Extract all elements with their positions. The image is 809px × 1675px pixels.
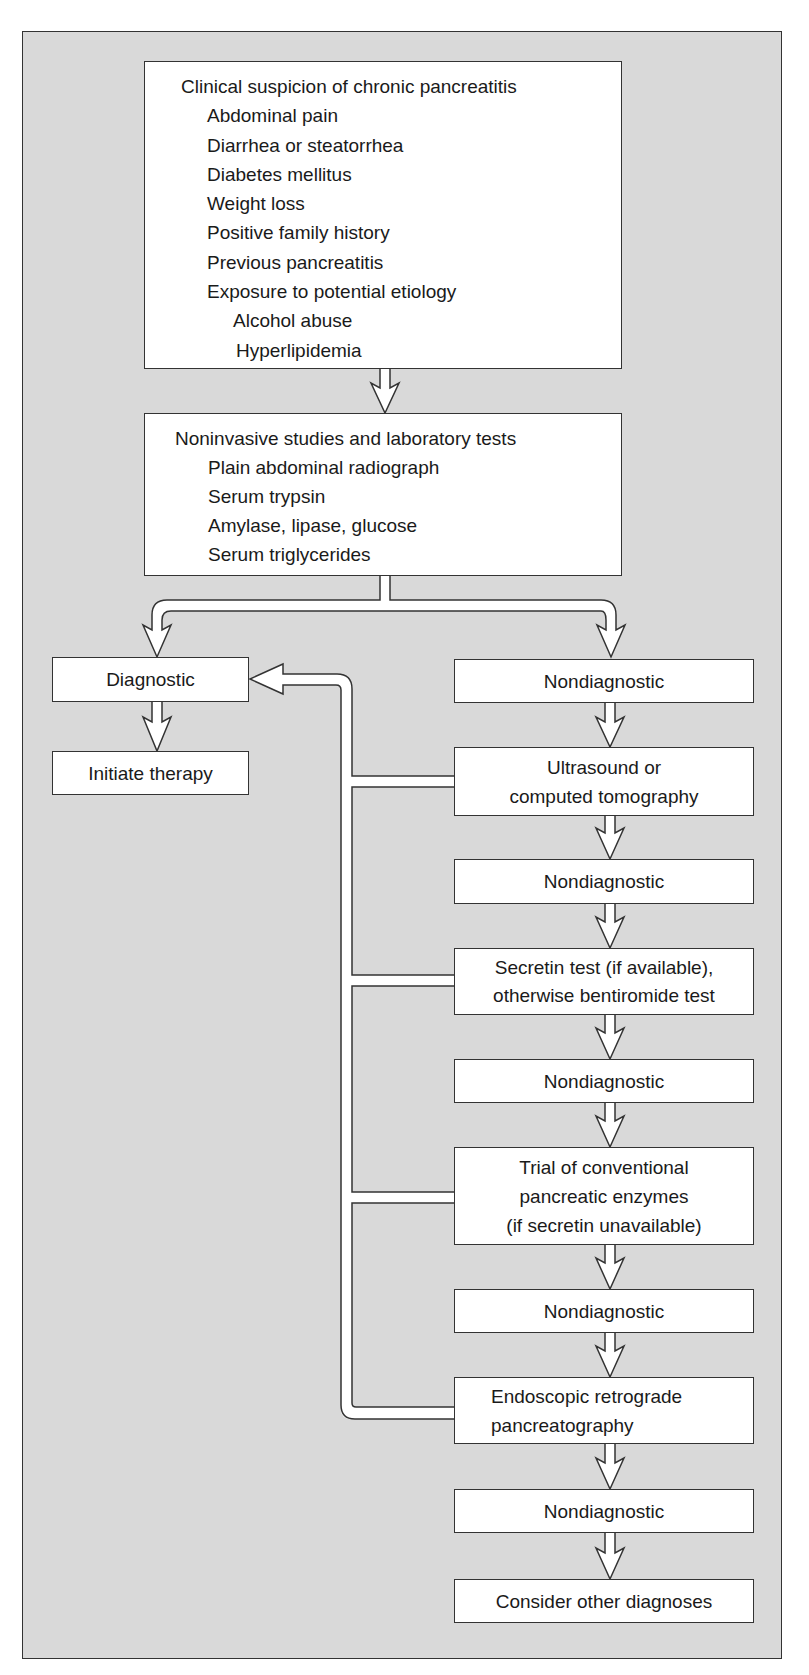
arrow-down-icon: [596, 816, 624, 859]
list-item: Amylase, lipase, glucose: [175, 511, 621, 540]
noninvasive-studies-box: Noninvasive studies and laboratory tests…: [144, 413, 622, 576]
arrow-down-icon: [596, 1015, 624, 1059]
node-label: Nondiagnostic: [544, 670, 664, 693]
ultrasound-ct-box: Ultrasound or computed tomography: [454, 747, 754, 816]
arrow-down-icon: [596, 1245, 624, 1289]
arrow-down-icon: [596, 1444, 624, 1489]
list-item: Abdominal pain: [181, 101, 621, 130]
sub-list-item: Hyperlipidemia: [181, 336, 621, 365]
nondiagnostic-box-2: Nondiagnostic: [454, 859, 754, 904]
trial-enzymes-box: Trial of conventional pancreatic enzymes…: [454, 1147, 754, 1245]
box-title: Noninvasive studies and laboratory tests: [175, 424, 621, 453]
list-item: Diabetes mellitus: [181, 160, 621, 189]
list-item: Weight loss: [181, 189, 621, 218]
node-label: Initiate therapy: [88, 762, 213, 785]
node-label: Diagnostic: [106, 668, 195, 691]
list-item: Exposure to potential etiology: [181, 277, 621, 306]
initiate-therapy-box: Initiate therapy: [52, 751, 249, 795]
box-title: Clinical suspicion of chronic pancreatit…: [181, 72, 621, 101]
nondiagnostic-box-5: Nondiagnostic: [454, 1489, 754, 1533]
node-label: Nondiagnostic: [544, 1300, 664, 1323]
nondiagnostic-box-4: Nondiagnostic: [454, 1289, 754, 1333]
secretin-test-box: Secretin test (if available), otherwise …: [454, 948, 754, 1015]
node-label-line: pancreatic enzymes: [520, 1185, 689, 1208]
clinical-suspicion-box: Clinical suspicion of chronic pancreatit…: [144, 61, 622, 369]
arrow-down-icon: [596, 1333, 624, 1377]
branch-connector: [143, 576, 625, 657]
arrow-down-icon: [596, 904, 624, 948]
node-label-line: Ultrasound or: [547, 756, 661, 779]
arrow-down-icon: [143, 702, 171, 751]
consider-other-diagnoses-box: Consider other diagnoses: [454, 1579, 754, 1623]
node-label-line: (if secretin unavailable): [506, 1214, 701, 1237]
list-item: Positive family history: [181, 218, 621, 247]
sub-list-item: Alcohol abuse: [181, 306, 621, 335]
return-loop-pipe: [250, 664, 454, 1419]
ercp-box: Endoscopic retrograde pancreatography: [454, 1377, 754, 1444]
arrow-down-icon: [371, 368, 399, 413]
node-label-line: pancreatography: [491, 1414, 634, 1437]
node-label-line: computed tomography: [509, 785, 698, 808]
node-label: Nondiagnostic: [544, 870, 664, 893]
node-label-line: Endoscopic retrograde: [491, 1385, 682, 1408]
list-item: Diarrhea or steatorrhea: [181, 131, 621, 160]
diagnostic-box: Diagnostic: [52, 657, 249, 702]
nondiagnostic-box-1: Nondiagnostic: [454, 659, 754, 703]
list-item: Serum triglycerides: [175, 540, 621, 569]
node-label: Nondiagnostic: [544, 1500, 664, 1523]
arrow-down-icon: [596, 703, 624, 747]
node-label: Nondiagnostic: [544, 1070, 664, 1093]
arrow-down-icon: [596, 1103, 624, 1147]
node-label: Consider other diagnoses: [496, 1590, 713, 1613]
node-label-line: Trial of conventional: [519, 1156, 688, 1179]
arrow-down-icon: [596, 1533, 624, 1579]
list-item: Previous pancreatitis: [181, 248, 621, 277]
list-item: Plain abdominal radiograph: [175, 453, 621, 482]
node-label-line: Secretin test (if available),: [495, 956, 714, 979]
node-label-line: otherwise bentiromide test: [493, 984, 715, 1007]
nondiagnostic-box-3: Nondiagnostic: [454, 1059, 754, 1103]
list-item: Serum trypsin: [175, 482, 621, 511]
